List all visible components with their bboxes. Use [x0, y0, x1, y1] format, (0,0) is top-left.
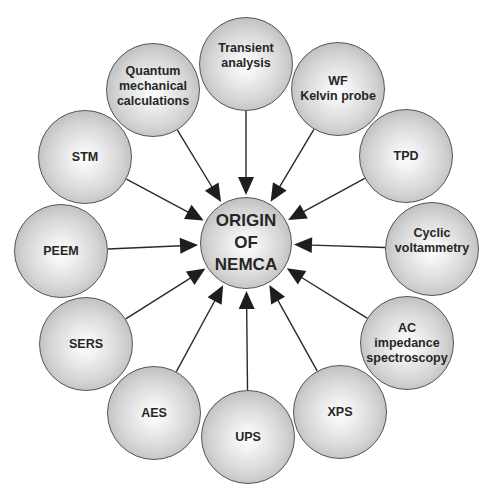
arrowhead-icon: [294, 237, 312, 253]
node-label: AES: [137, 406, 171, 421]
arrowhead-icon: [271, 182, 287, 202]
node-label: TPD: [390, 149, 423, 164]
arrow-wf-to-center: [276, 129, 314, 192]
node-label: SERS: [65, 337, 107, 352]
node-label: UPS: [231, 430, 265, 445]
node-ac: AC impedance spectroscopy: [360, 296, 454, 390]
nemca-diagram: Transient analysisWF Kelvin probeTPDCycl…: [0, 0, 496, 501]
arrowhead-icon: [269, 285, 285, 305]
arrow-tpd-to-center: [298, 178, 365, 214]
arrow-cyclic-to-center: [305, 245, 385, 248]
node-transient: Transient analysis: [199, 17, 293, 111]
arrowhead-icon: [239, 291, 255, 309]
node-stm: STM: [38, 110, 132, 204]
node-cyclic: Cyclic voltammetry: [385, 202, 479, 296]
node-tpd: TPD: [359, 109, 453, 203]
arrowhead-icon: [288, 204, 308, 220]
node-quantum: Quantum mechanical calculations: [106, 43, 200, 137]
arrowhead-icon: [180, 238, 198, 254]
arrow-ac-to-center: [296, 274, 367, 318]
arrow-xps-to-center: [275, 294, 318, 371]
node-sers: SERS: [39, 297, 133, 391]
node-label: Quantum mechanical calculations: [113, 64, 193, 109]
node-label: STM: [68, 150, 102, 165]
node-label: PEEM: [39, 244, 82, 259]
node-wf: WF Kelvin probe: [291, 42, 385, 136]
arrow-aes-to-center: [176, 295, 218, 372]
center-node-origin-of-nemca: ORIGIN OF NEMCA: [200, 197, 292, 289]
arrowhead-icon: [238, 177, 254, 195]
arrow-peem-to-center: [108, 246, 187, 249]
arrowhead-icon: [208, 285, 224, 305]
arrowhead-icon: [287, 268, 307, 284]
node-label: AC impedance spectroscopy: [362, 321, 451, 366]
arrow-sers-to-center: [126, 274, 197, 319]
arrow-stm-to-center: [126, 179, 194, 215]
arrow-ups-to-center: [247, 302, 248, 390]
node-label: XPS: [323, 405, 356, 420]
node-label: Transient analysis: [214, 41, 278, 71]
arrowhead-icon: [184, 205, 204, 221]
node-label: Cyclic voltammetry: [391, 226, 473, 256]
node-label: WF Kelvin probe: [296, 74, 380, 104]
node-xps: XPS: [293, 365, 387, 459]
node-ups: UPS: [201, 390, 295, 484]
arrowhead-icon: [205, 182, 221, 202]
node-peem: PEEM: [14, 204, 108, 298]
node-aes: AES: [107, 366, 201, 460]
arrow-quantum-to-center: [177, 130, 215, 193]
arrowhead-icon: [186, 269, 205, 285]
node-label: ORIGIN OF NEMCA: [211, 210, 281, 276]
